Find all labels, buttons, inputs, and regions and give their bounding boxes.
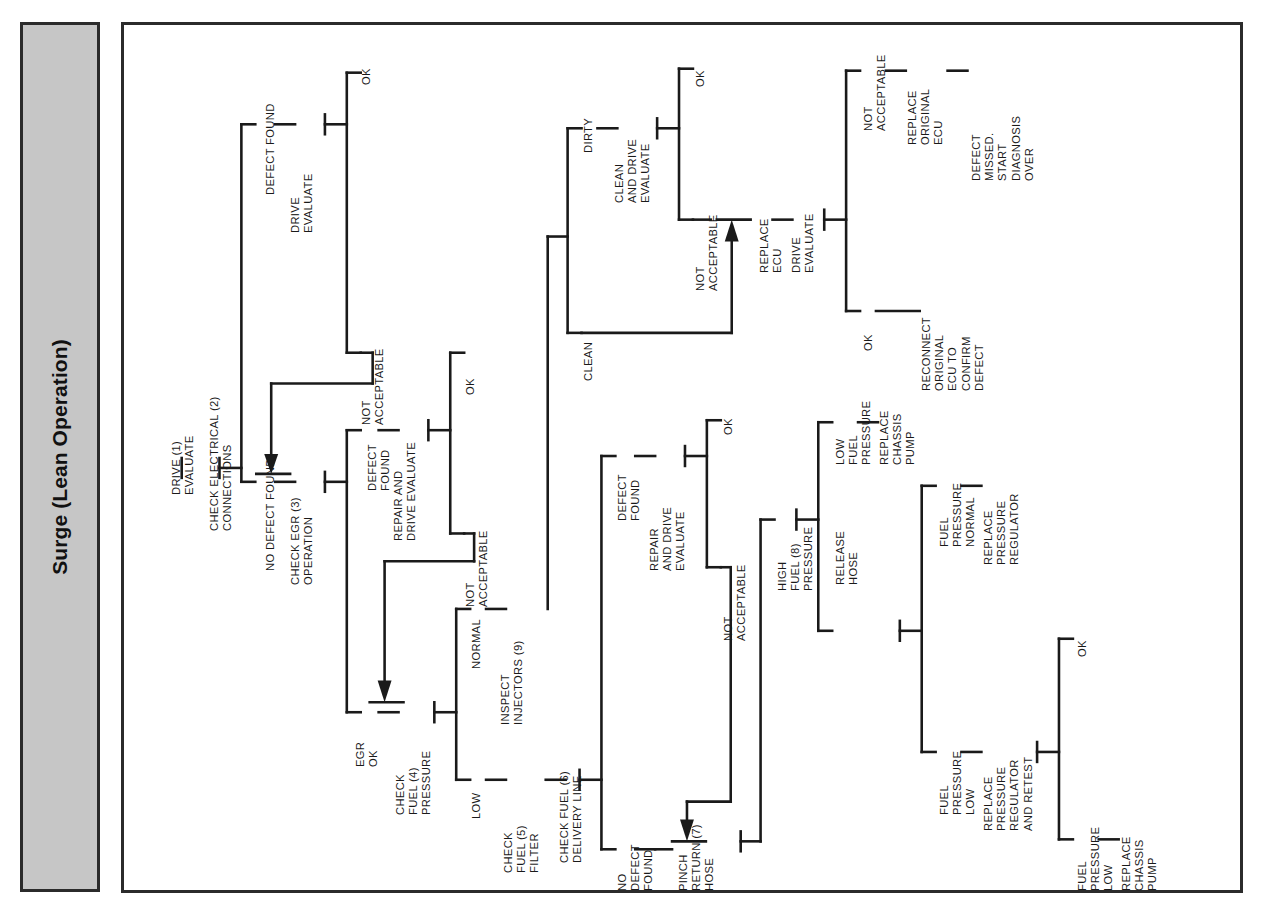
node-release-hose: RELEASEHOSE <box>834 531 860 585</box>
node-not-acceptable-3: NOTACCEPTABLE <box>722 564 748 641</box>
node-check-fuel-5-filter: CHECKFUEL (5)FILTER <box>502 825 542 873</box>
node-not-acceptable-4: NOTACCEPTABLE <box>694 214 720 291</box>
diagram-frame: DRIVE (1)EVALUATE CHECK ELECTRICAL (2)CO… <box>121 22 1243 893</box>
node-drive-1-evaluate: DRIVE (1)EVALUATE <box>170 435 196 495</box>
node-reconnect-original-ecu: RECONNECTORIGINALECU TOCONFIRMDEFECT <box>920 317 986 391</box>
node-check-electrical-connections: CHECK ELECTRICAL (2)CONNECTIONS <box>208 396 234 531</box>
node-repair-and-drive-evaluate-2: REPAIRAND DRIVEEVALUATE <box>648 507 688 571</box>
node-check-fuel-6-delivery-line: CHECK FUEL (6)DELIVERY LINE <box>558 771 584 863</box>
node-clean-injectors: CLEAN <box>582 342 595 381</box>
node-replace-chassis-pump-1: REPLACECHASSISPUMP <box>878 410 918 465</box>
node-not-acceptable-1: NOTACCEPTABLE <box>360 348 386 425</box>
node-check-fuel-4-pressure: CHECKFUEL (4)PRESSURE <box>394 751 434 815</box>
node-replace-chassis-pump-2: REPLACECHASSISPUMP <box>1120 836 1160 891</box>
node-drive-evaluate-1: DRIVEEVALUATE <box>289 173 315 233</box>
node-ok-drive-evaluate-1: OK <box>360 68 373 85</box>
node-egr-ok: EGROK <box>354 742 380 767</box>
node-replace-original-ecu: REPLACEORIGINALECU <box>906 89 946 145</box>
node-ok-retest: OK <box>1076 640 1089 657</box>
node-normal-fuel-pressure: NORMAL <box>470 619 483 669</box>
node-ok-clean-evaluate: OK <box>694 70 707 87</box>
node-ok-repair-1: OK <box>464 378 477 395</box>
node-defect-found-egr: DEFECTFOUND <box>366 444 392 491</box>
node-check-egr-3-operation: CHECK EGR (3)OPERATION <box>289 497 315 585</box>
node-drive-evaluate-2: DRIVEEVALUATE <box>790 213 816 273</box>
node-replace-pressure-regulator: REPLACEPRESSUREREGULATOR <box>982 493 1022 565</box>
node-pinch-return-7-hose: PINCHRETURN (7)HOSE <box>677 824 717 891</box>
node-fuel-pressure-low-1: FUELPRESSURELOW <box>938 751 978 815</box>
node-not-acceptable-2: NOTACCEPTABLE <box>464 530 490 607</box>
page-title: Surge (Lean Operation) <box>48 339 72 575</box>
node-ok-repair-2: OK <box>722 418 735 435</box>
node-repair-and-drive-evaluate-1: REPAIR ANDDRIVE EVALUATE <box>392 442 418 541</box>
node-ok-drive-evaluate-2: OK <box>862 334 875 351</box>
node-replace-regulator-and-retest: REPLACEPRESSUREREGULATORAND RETEST <box>982 757 1035 831</box>
node-fuel-pressure-low-2: FUELPRESSURELOW <box>1076 827 1116 891</box>
node-low-fuel-pressure-4: LOW <box>470 792 483 819</box>
node-clean-and-drive-evaluate: CLEANAND DRIVEEVALUATE <box>613 139 653 203</box>
node-not-acceptable-5: NOTACCEPTABLE <box>862 54 888 131</box>
node-defect-found-delivery: DEFECTFOUND <box>616 474 642 521</box>
node-defect-found-electrical: DEFECT FOUND <box>264 103 277 195</box>
title-band: Surge (Lean Operation) <box>20 22 100 892</box>
node-replace-ecu: REPLACEECU <box>758 218 784 273</box>
node-no-defect-found-delivery: NODEFECTFOUND <box>616 844 656 891</box>
node-inspect-injectors-9: INSPECTINJECTORS (9) <box>499 640 525 725</box>
node-no-defect-found-electrical: NO DEFECT FOUND <box>264 458 277 571</box>
node-fuel-pressure-normal: FUELPRESSURENORMAL <box>938 483 978 547</box>
flowchart-connectors <box>124 25 1240 890</box>
node-defect-missed-start-over: DEFECTMISSED.STARTDIAGNOSISOVER <box>970 116 1036 181</box>
node-low-fuel-pressure-8: LOWFUELPRESSURE <box>834 401 874 465</box>
node-dirty-injectors: DIRTY <box>582 118 595 153</box>
node-high-fuel-8-pressure: HIGHFUEL (8)PRESSURE <box>776 527 816 591</box>
